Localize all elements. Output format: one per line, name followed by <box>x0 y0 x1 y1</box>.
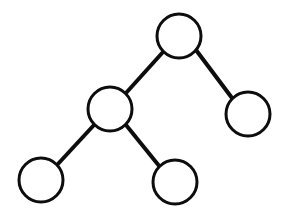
tree-edge <box>196 50 232 98</box>
tree-node-left <box>88 87 132 131</box>
tree-node-right <box>226 92 270 136</box>
tree-edge <box>126 52 163 93</box>
tree-edge <box>57 125 94 165</box>
binary-tree-graphic <box>0 0 282 222</box>
tree-diagram-canvas <box>0 0 282 222</box>
tree-node-left-right <box>153 160 197 204</box>
edges-group <box>57 50 232 167</box>
tree-edge <box>126 125 160 167</box>
nodes-group <box>19 14 270 204</box>
tree-node-root <box>157 14 201 58</box>
tree-node-left-left <box>19 158 63 202</box>
